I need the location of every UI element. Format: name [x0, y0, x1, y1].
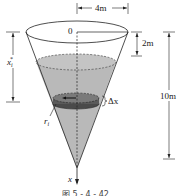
cone-tank-diagram: x 0 4m 2m 10m xi* Δx ri 图 5 - 4 - 42 — [0, 0, 180, 196]
slice-radius-label: ri — [44, 116, 50, 127]
depth-dim-arrow-up-icon — [136, 33, 139, 37]
x-axis-label: x — [67, 174, 72, 184]
origin-label: 0 — [68, 26, 73, 36]
figure-caption: 图 5 - 4 - 42 — [62, 190, 109, 196]
radius-label: 4m — [95, 3, 107, 13]
depth-label: 2m — [142, 38, 154, 48]
slice-depth-arrow-down-icon — [12, 97, 15, 101]
height-dim-arrow-up-icon — [168, 33, 171, 37]
water-region — [36, 62, 116, 168]
height-label: 10m — [160, 91, 176, 101]
slice-thickness-label: Δx — [108, 96, 119, 106]
depth-dim-arrow-down-icon — [136, 51, 139, 55]
x-axis-arrow-icon — [75, 179, 79, 185]
water-surface — [36, 54, 116, 70]
slice-depth-arrow-up-icon — [12, 33, 15, 37]
radius-dim-arrow-left-icon — [78, 7, 82, 10]
slice-depth-label: xi* — [6, 56, 13, 68]
radius-dim-arrow-right-icon — [123, 7, 127, 10]
height-dim-arrow-down-icon — [168, 154, 171, 158]
